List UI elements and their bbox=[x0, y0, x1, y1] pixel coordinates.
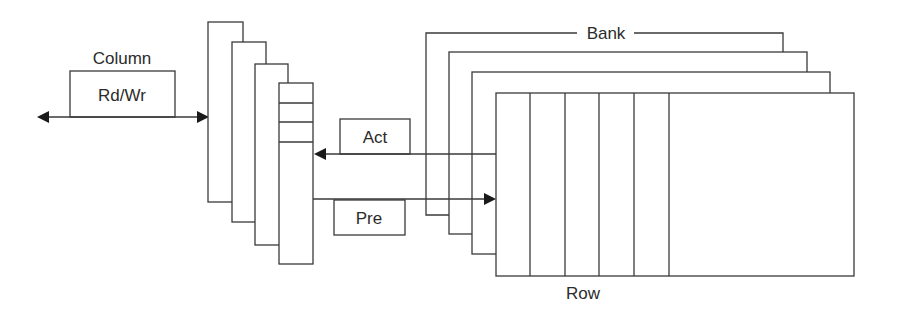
rdwr-label: Rd/Wr bbox=[98, 86, 146, 105]
column-label: Column bbox=[93, 49, 152, 68]
arrow-left-icon bbox=[37, 111, 49, 123]
bank-label: Bank bbox=[587, 24, 626, 43]
act-label: Act bbox=[363, 128, 388, 147]
pre-label: Pre bbox=[356, 209, 382, 228]
bank-4 bbox=[496, 93, 854, 276]
dram-diagram: Column Rd/Wr Bank Act bbox=[0, 0, 898, 314]
column-buffer-4 bbox=[279, 83, 313, 264]
arrow-right-icon bbox=[197, 111, 209, 123]
bank-1-right bbox=[634, 33, 783, 52]
row-label: Row bbox=[566, 284, 601, 303]
bank-stack: Bank bbox=[426, 24, 854, 276]
arrow-left-icon bbox=[314, 148, 326, 160]
column-buffer-stack bbox=[208, 22, 313, 264]
